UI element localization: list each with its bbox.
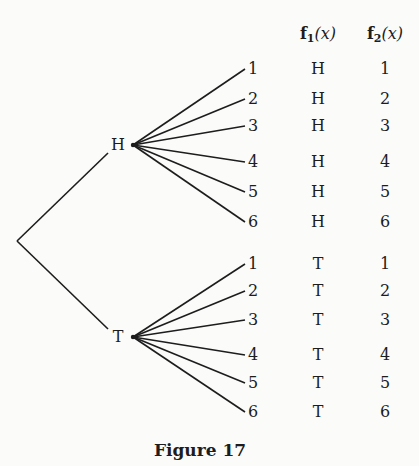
f1-value: H — [311, 61, 325, 77]
figure-caption: Figure 17 — [154, 440, 246, 460]
leaf-label: 3 — [248, 118, 258, 134]
leaf-label: 5 — [248, 184, 258, 200]
f2-value: 4 — [380, 154, 390, 170]
edge-T-4 — [133, 337, 245, 355]
edge-T-6 — [133, 337, 245, 412]
f2-value: 5 — [380, 184, 390, 200]
f1-value: H — [311, 118, 325, 134]
f1-argument: (x) — [315, 24, 337, 43]
f2-value: 2 — [380, 91, 390, 107]
leaf-label: 5 — [248, 375, 258, 391]
f2-value: 3 — [380, 312, 390, 328]
f1-value: H — [311, 154, 325, 170]
node-label-T: T — [113, 329, 124, 345]
tree-diagram — [0, 0, 419, 466]
leaf-label: 1 — [248, 61, 258, 77]
f1-value: T — [313, 375, 324, 391]
f2-value: 4 — [380, 347, 390, 363]
f2-value: 2 — [380, 283, 390, 299]
leaf-label: 1 — [248, 256, 258, 272]
leaf-label: 4 — [248, 154, 258, 170]
edge-H-6 — [133, 145, 245, 222]
f2-argument: (x) — [382, 24, 404, 43]
leaf-label: 6 — [248, 214, 258, 230]
f1-name: f — [300, 24, 307, 43]
root-to-T-edge — [17, 241, 108, 329]
edge-T-2 — [133, 291, 245, 337]
f1-value: T — [313, 312, 324, 328]
column-header-f2: f2(x) — [367, 26, 403, 47]
f2-value: 1 — [380, 256, 390, 272]
node-label-H: H — [111, 137, 125, 153]
f1-value: T — [313, 347, 324, 363]
edge-H-5 — [133, 145, 245, 192]
f1-subscript: 1 — [307, 32, 315, 45]
edge-H-2 — [133, 99, 245, 145]
f1-value: H — [311, 214, 325, 230]
f2-value: 1 — [380, 61, 390, 77]
leaf-label: 4 — [248, 347, 258, 363]
f1-value: T — [313, 404, 324, 420]
f2-value: 6 — [380, 404, 390, 420]
f1-value: T — [313, 283, 324, 299]
leaf-label: 6 — [248, 404, 258, 420]
edge-T-1 — [133, 264, 245, 337]
edge-T-3 — [133, 320, 245, 337]
f1-value: H — [311, 91, 325, 107]
edge-T-5 — [133, 337, 245, 383]
f2-subscript: 2 — [374, 32, 382, 45]
root-to-H-edge — [17, 153, 108, 241]
edge-H-3 — [133, 126, 245, 145]
leaf-label: 2 — [248, 283, 258, 299]
f2-value: 6 — [380, 214, 390, 230]
edge-H-4 — [133, 145, 245, 162]
f2-value: 3 — [380, 118, 390, 134]
f1-value: T — [313, 256, 324, 272]
f2-name: f — [367, 24, 374, 43]
leaf-label: 2 — [248, 91, 258, 107]
f1-value: H — [311, 184, 325, 200]
leaf-label: 3 — [248, 312, 258, 328]
column-header-f1: f1(x) — [300, 26, 336, 47]
f2-value: 5 — [380, 375, 390, 391]
edge-H-1 — [133, 69, 245, 145]
